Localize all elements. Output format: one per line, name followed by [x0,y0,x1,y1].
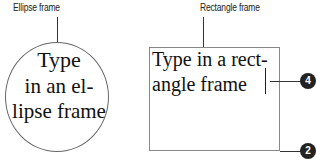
text-cursor [265,68,266,94]
rectangle-text-line-2: angle frame [152,74,247,94]
ellipse-text-line-3: lipse frame [0,101,118,122]
callout-badge-4: 4 [300,73,316,89]
ellipse-frame-label: Ellipse frame [13,2,60,13]
rectangle-frame-label: Rectangle frame [200,2,260,13]
callout-badge-2: 2 [300,143,316,159]
rectangle-leader-line [203,17,204,47]
ellipse-text-line-1: Type [0,49,118,71]
ellipse-text-line-2: in an el- [0,76,118,97]
ellipse-leader-line [57,17,58,43]
rectangle-text-line-1: Type in a rect- [152,49,268,69]
